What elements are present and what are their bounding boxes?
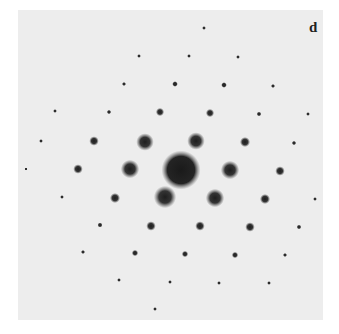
- diffraction-spot: [217, 281, 221, 285]
- diffraction-spot: [146, 221, 156, 231]
- diffraction-spot: [271, 84, 275, 88]
- diffraction-spot: [121, 160, 140, 179]
- diffraction-spot: [172, 81, 178, 87]
- diffraction-spot: [240, 137, 250, 147]
- diffraction-spot: [53, 109, 57, 113]
- diffraction-spot: [297, 225, 302, 230]
- diffraction-spot: [221, 161, 240, 180]
- diffraction-spot: [137, 54, 141, 58]
- diffraction-spot: [132, 250, 138, 256]
- diffraction-spot: [232, 252, 238, 258]
- diffraction-spot: [89, 136, 99, 146]
- diffraction-spot: [313, 197, 317, 201]
- diffraction-spot: [257, 112, 262, 117]
- diffraction-spot: [187, 132, 205, 150]
- central-beam: [161, 150, 200, 189]
- diffraction-spot: [267, 281, 271, 285]
- diffraction-spot: [117, 278, 121, 282]
- diffraction-spot: [60, 195, 64, 199]
- diffraction-spot: [110, 193, 120, 203]
- diffraction-spot: [195, 221, 205, 231]
- diffraction-spot: [182, 251, 188, 257]
- diffraction-spot: [154, 186, 176, 208]
- diffraction-spot: [275, 166, 285, 176]
- diffraction-spot: [107, 110, 111, 114]
- diffraction-spot: [221, 82, 227, 88]
- diffraction-pattern: [0, 0, 339, 334]
- diffraction-spot: [306, 112, 310, 116]
- diffraction-spot: [153, 307, 157, 311]
- diffraction-spot: [260, 194, 270, 204]
- diffraction-spot: [81, 250, 85, 254]
- diffraction-spot: [39, 139, 43, 143]
- diffraction-spot: [122, 82, 126, 86]
- diffraction-spot: [236, 55, 240, 59]
- diffraction-spot: [136, 133, 154, 151]
- panel-label: d: [309, 20, 317, 35]
- diffraction-spot: [206, 109, 214, 117]
- diffraction-spot: [156, 108, 164, 116]
- diffraction-spot: [245, 222, 255, 232]
- diffraction-spot: [187, 54, 191, 58]
- diffraction-spot: [292, 141, 296, 145]
- diffraction-spot: [73, 164, 83, 174]
- diffraction-spot: [24, 167, 27, 170]
- diffraction-spot: [202, 26, 206, 30]
- diffraction-spot: [283, 253, 287, 257]
- diffraction-spot: [97, 222, 102, 227]
- diffraction-spot: [206, 189, 225, 208]
- diffraction-spot: [168, 280, 172, 284]
